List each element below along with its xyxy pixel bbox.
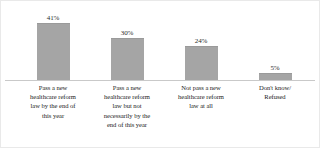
bar-value-label: 41% [47,14,60,22]
bar-chart: 41% 30% 24% 5% Pass a new healthcare ref… [0,0,320,148]
bars-layer: 41% 30% 24% 5% [1,1,319,81]
category-labels: Pass a new healthcare reform law by the … [1,83,319,147]
bar-value-label: 30% [121,29,134,37]
bar-group: 30% [87,1,167,80]
category-label: Don't know/ Refused [235,83,315,101]
bar-group: 24% [161,1,241,80]
bar-rect[interactable] [259,73,292,80]
category-label: Pass a new healthcare reform law but not… [87,83,167,129]
bar-rect[interactable] [111,38,144,80]
bar-rect[interactable] [185,46,218,80]
plot-area: 41% 30% 24% 5% [1,1,319,81]
bar-group: 5% [235,1,315,80]
category-label: Pass a new healthcare reform law by the … [13,83,93,120]
x-axis-line [5,80,315,81]
bar-value-label: 5% [270,64,279,72]
bar-group: 41% [13,1,93,80]
bar-value-label: 24% [195,37,208,45]
category-label: Not pass a new healthcare reform law at … [161,83,241,111]
bar-rect[interactable] [37,23,70,80]
